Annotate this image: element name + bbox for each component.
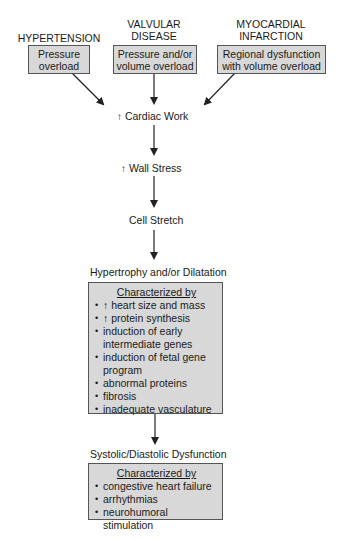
cardiac-work-node: ↑ Cardiac Work bbox=[117, 110, 188, 122]
regional-dysfunction-box: Regional dysfunction with volume overloa… bbox=[217, 45, 326, 74]
list-item: inadequate vasculature bbox=[95, 403, 218, 416]
up-arrow-icon: ↑ bbox=[121, 163, 126, 174]
characterized-by-heading: Characterized by bbox=[95, 286, 218, 299]
characteristics-list: ↑ heart size and mass ↑ protein synthesi… bbox=[95, 299, 218, 416]
hypertrophy-characteristics-box: Characterized by ↑ heart size and mass ↑… bbox=[88, 282, 223, 414]
valvular-disease-title: VALVULAR DISEASE bbox=[104, 18, 204, 42]
up-arrow-icon: ↑ bbox=[117, 111, 122, 122]
pressure-volume-overload-box: Pressure and/or volume overload bbox=[113, 45, 197, 74]
list-item: arrhythmias bbox=[95, 493, 218, 506]
wall-stress-node: ↑ Wall Stress bbox=[121, 162, 182, 174]
title-line: VALVULAR bbox=[104, 18, 204, 30]
myocardial-infarction-title: MYOCARDIAL INFARCTION bbox=[211, 18, 331, 42]
cell-stretch-node: Cell Stretch bbox=[129, 214, 183, 226]
list-item: ↑ protein synthesis bbox=[95, 312, 218, 325]
pressure-overload-box: Pressure overload bbox=[28, 45, 90, 74]
node-label: Wall Stress bbox=[129, 162, 182, 174]
title-line: MYOCARDIAL bbox=[211, 18, 331, 30]
hypertrophy-node: Hypertrophy and/or Dilatation bbox=[90, 266, 227, 278]
box-line: volume overload bbox=[114, 60, 196, 72]
list-item: abnormal proteins bbox=[95, 377, 218, 390]
dysfunction-node: Systolic/Diastolic Dysfunction bbox=[90, 448, 227, 460]
box-line: overload bbox=[29, 60, 89, 72]
list-item: neurohumoral stimulation bbox=[95, 506, 218, 532]
characteristics-list: congestive heart failure arrhythmias neu… bbox=[95, 480, 218, 532]
box-line: Pressure bbox=[29, 48, 89, 60]
node-label: Cardiac Work bbox=[125, 110, 188, 122]
box-line: with volume overload bbox=[218, 60, 325, 72]
list-item: ↑ heart size and mass bbox=[95, 299, 218, 312]
list-item: induction of early intermediate genes bbox=[95, 325, 218, 351]
box-line: Pressure and/or bbox=[114, 48, 196, 60]
box-line: Regional dysfunction bbox=[218, 48, 325, 60]
list-item: induction of fetal gene program bbox=[95, 351, 218, 377]
dysfunction-characteristics-box: Characterized by congestive heart failur… bbox=[88, 463, 223, 520]
title-line: DISEASE bbox=[104, 30, 204, 42]
hypertension-title: HYPERTENSION bbox=[5, 32, 113, 44]
title-line: INFARCTION bbox=[211, 30, 331, 42]
characterized-by-heading: Characterized by bbox=[95, 467, 218, 480]
list-item: congestive heart failure bbox=[95, 480, 218, 493]
list-item: fibrosis bbox=[95, 390, 218, 403]
